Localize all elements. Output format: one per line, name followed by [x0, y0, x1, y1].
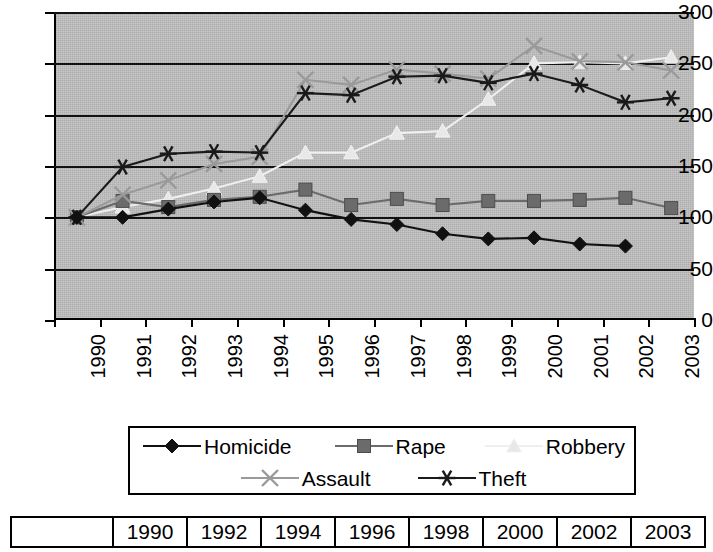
table-header-year: 1990	[113, 517, 187, 547]
data-point-diamond	[481, 232, 495, 246]
table-header-year: 2000	[483, 517, 557, 547]
y-tick-mark	[45, 269, 54, 271]
legend-item-rape[interactable]: Rape	[332, 430, 446, 462]
x-tick-mark	[694, 318, 696, 327]
data-point-diamond	[298, 203, 312, 217]
y-tick-mark	[45, 320, 54, 322]
data-point-square	[619, 191, 632, 204]
table-header-year: 2002	[557, 517, 631, 547]
legend-item-theft[interactable]: Theft	[415, 462, 527, 494]
legend-item-robbery[interactable]: Robbery	[482, 430, 625, 462]
x-tick-label: 1995	[315, 334, 338, 379]
crime-index-figure: 0501001502002503001990199119921993199419…	[0, 0, 713, 552]
series-rape	[70, 183, 677, 224]
chart-legend: HomicideRapeRobbery AssaultTheft	[128, 426, 636, 495]
y-tick-mark	[45, 63, 54, 65]
line-chart: 0501001502002503001990199119921993199419…	[0, 0, 713, 340]
data-point-square	[345, 199, 358, 212]
y-tick-mark	[45, 166, 54, 168]
table-header-year: 1992	[187, 517, 261, 547]
data-point-diamond	[436, 227, 450, 241]
data-point-diamond	[390, 218, 404, 232]
data-point-asterisk	[438, 471, 455, 486]
x-tick-label: 1997	[407, 334, 430, 379]
legend-marker-square-icon	[332, 433, 396, 459]
x-tick-label: 1992	[178, 334, 201, 379]
table-corner-cell	[11, 517, 113, 547]
data-point-x	[526, 38, 542, 54]
series-assault	[69, 38, 679, 225]
table-row: 19901992199419961998200020022003	[11, 517, 705, 547]
years-table: 19901992199419961998200020022003	[10, 516, 706, 548]
legend-item-label: Homicide	[204, 436, 292, 457]
data-point-diamond	[165, 439, 179, 453]
x-tick-label: 2001	[590, 334, 613, 379]
x-tick-label: 1991	[133, 334, 156, 379]
x-tick-label: 2003	[681, 334, 704, 379]
x-tick-label: 1998	[453, 334, 476, 379]
legend-row-top: HomicideRapeRobbery	[130, 430, 634, 462]
data-point-square	[573, 193, 586, 206]
legend-item-homicide[interactable]: Homicide	[140, 430, 292, 462]
data-point-square	[665, 202, 678, 215]
legend-item-assault[interactable]: Assault	[238, 462, 371, 494]
legend-row-bottom: AssaultTheft	[130, 462, 634, 494]
legend-item-label: Theft	[479, 468, 527, 489]
data-point-asterisk	[571, 77, 588, 92]
x-tick-label: 1996	[361, 334, 384, 379]
x-tick-label: 1994	[270, 334, 293, 379]
data-point-asterisk	[160, 146, 177, 161]
data-point-square	[357, 440, 370, 453]
series-robbery	[69, 50, 678, 224]
data-point-diamond	[344, 212, 358, 226]
table-header-year: 2003	[631, 517, 705, 547]
data-point-square	[390, 192, 403, 205]
y-tick-mark	[45, 217, 54, 219]
data-point-diamond	[573, 237, 587, 251]
legend-marker-asterisk-icon	[415, 465, 479, 491]
data-point-square	[528, 194, 541, 207]
x-tick-label: 1999	[498, 334, 521, 379]
table-header-year: 1996	[335, 517, 409, 547]
data-point-diamond	[618, 239, 632, 253]
x-tick-label: 2002	[635, 334, 658, 379]
y-tick-mark	[45, 12, 54, 14]
data-point-asterisk	[663, 91, 680, 106]
legend-marker-triangle-icon	[482, 433, 546, 459]
legend-marker-diamond-icon	[140, 433, 204, 459]
data-point-triangle	[481, 92, 496, 106]
legend-item-label: Assault	[302, 468, 371, 489]
y-tick-mark	[45, 115, 54, 117]
data-point-diamond	[527, 231, 541, 245]
series-layer	[54, 12, 694, 320]
x-tick-label: 2000	[544, 334, 567, 379]
legend-marker-x-icon	[238, 465, 302, 491]
table-header-year: 1994	[261, 517, 335, 547]
data-point-x	[160, 172, 176, 188]
data-point-square	[482, 194, 495, 207]
x-tick-label: 1990	[87, 334, 110, 379]
data-point-triangle	[252, 169, 267, 183]
data-point-triangle	[664, 50, 679, 64]
x-tick-label: 1993	[224, 334, 247, 379]
table-header-year: 1998	[409, 517, 483, 547]
data-point-square	[299, 183, 312, 196]
legend-item-label: Robbery	[546, 436, 625, 457]
data-point-asterisk	[617, 95, 634, 110]
legend-item-label: Rape	[396, 436, 446, 457]
data-point-square	[436, 199, 449, 212]
